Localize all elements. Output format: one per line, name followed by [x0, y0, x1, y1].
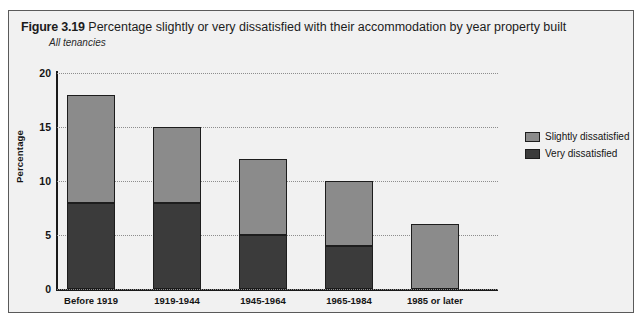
bar-segment-slightly-dissatisfied[interactable] [153, 127, 201, 203]
chart-plot-wrapper: Percentage 0 5 10 15 20 [9, 11, 635, 314]
x-tick-1965-1984: 1965-1984 [306, 295, 392, 306]
gridline-15 [57, 127, 498, 128]
legend-item-very-dissatisfied[interactable]: Very dissatisfied [525, 146, 629, 161]
y-axis-tick-labels: 0 5 10 15 20 [21, 73, 51, 289]
y-tick-20: 20 [25, 67, 51, 79]
figure-panel: Figure 3.19 Percentage slightly or very … [8, 10, 634, 313]
chart-legend: Slightly dissatisfied Very dissatisfied [525, 129, 629, 163]
bar-segment-very-dissatisfied[interactable] [239, 235, 287, 289]
bar-segment-slightly-dissatisfied[interactable] [67, 95, 115, 203]
y-tick-10: 10 [25, 175, 51, 187]
bar-segment-very-dissatisfied[interactable] [67, 203, 115, 289]
bar-segment-slightly-dissatisfied[interactable] [239, 159, 287, 235]
legend-label: Very dissatisfied [545, 148, 617, 159]
plot-area [57, 73, 498, 289]
x-tick-before-1919: Before 1919 [48, 295, 134, 306]
bar-segment-very-dissatisfied[interactable] [325, 246, 373, 289]
gridline-20 [57, 73, 498, 74]
bar-segment-very-dissatisfied[interactable] [153, 203, 201, 289]
x-tick-1985-or-later: 1985 or later [392, 295, 478, 306]
legend-swatch-icon [525, 149, 540, 159]
gridline-0 [57, 289, 498, 290]
y-tick-15: 15 [25, 121, 51, 133]
bar-segment-slightly-dissatisfied[interactable] [325, 181, 373, 246]
y-tick-5: 5 [25, 229, 51, 241]
y-tick-0: 0 [25, 283, 51, 295]
legend-swatch-icon [525, 132, 540, 142]
x-tick-1919-1944: 1919-1944 [134, 295, 220, 306]
legend-item-slightly-dissatisfied[interactable]: Slightly dissatisfied [525, 129, 629, 144]
legend-label: Slightly dissatisfied [545, 131, 629, 142]
x-tick-1945-1964: 1945-1964 [220, 295, 306, 306]
bar-segment-slightly-dissatisfied[interactable] [411, 224, 459, 289]
